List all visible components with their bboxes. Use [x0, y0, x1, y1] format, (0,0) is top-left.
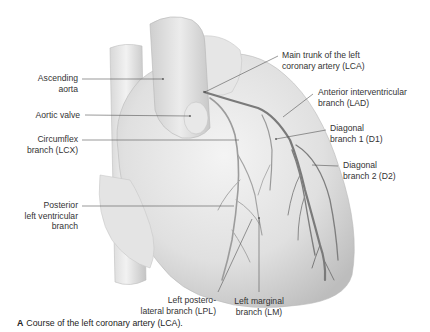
- label-line: branch: [4, 221, 78, 232]
- label-d2: Diagonal branch 2 (D2): [343, 160, 396, 181]
- label-aortic-valve: Aortic valve: [14, 110, 80, 121]
- label-lpl: Left postero- lateral branch (LPL): [136, 295, 216, 316]
- label-line: aorta: [14, 84, 78, 95]
- label-line: lateral branch (LPL): [136, 306, 216, 317]
- label-line: Ascending: [14, 73, 78, 84]
- figure-caption: ACourse of the left coronary artery (LCA…: [17, 318, 183, 328]
- label-line: Left marginal: [226, 296, 292, 307]
- aortic-valve: [184, 102, 208, 134]
- label-circumflex-branch: Circumflex branch (LCX): [14, 134, 78, 155]
- label-line: Anterior interventricular: [318, 87, 407, 98]
- label-line: branch (LAD): [318, 98, 407, 109]
- label-line: Posterior: [4, 200, 78, 211]
- label-line: Main trunk of the left: [282, 50, 365, 61]
- label-lm: Left marginal branch (LM): [226, 296, 292, 317]
- label-main-trunk-lca: Main trunk of the left coronary artery (…: [282, 50, 365, 71]
- label-ascending-aorta: Ascending aorta: [14, 73, 78, 94]
- label-line: branch (LM): [226, 307, 292, 318]
- label-lad: Anterior interventricular branch (LAD): [318, 87, 407, 108]
- label-line: branch 1 (D1): [330, 134, 383, 145]
- label-line: Left postero-: [136, 295, 216, 306]
- label-line: coronary artery (LCA): [282, 61, 365, 72]
- label-line: Diagonal: [343, 160, 396, 171]
- label-line: Circumflex: [14, 134, 78, 145]
- label-line: branch (LCX): [14, 145, 78, 156]
- label-posterior-lv-branch: Posterior left ventricular branch: [4, 200, 78, 232]
- label-line: left ventricular: [4, 211, 78, 222]
- label-line: Aortic valve: [14, 110, 80, 121]
- label-d1: Diagonal branch 1 (D1): [330, 123, 383, 144]
- caption-text: Course of the left coronary artery (LCA)…: [26, 318, 182, 328]
- label-line: Diagonal: [330, 123, 383, 134]
- label-line: branch 2 (D2): [343, 171, 396, 182]
- panel-letter: A: [17, 318, 23, 328]
